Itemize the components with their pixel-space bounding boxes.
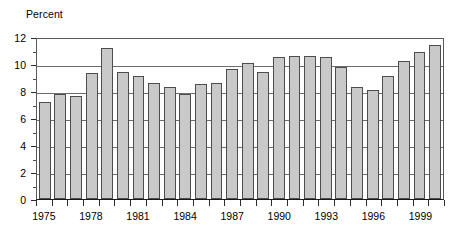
bar-chart: Percent 024681012 1975197819811984198719… xyxy=(0,0,454,246)
bar xyxy=(273,57,285,199)
bar-series xyxy=(37,39,443,199)
bar xyxy=(117,72,129,199)
bar xyxy=(148,83,160,199)
x-tick xyxy=(366,200,367,206)
bar xyxy=(429,45,441,199)
plot-area xyxy=(36,38,444,200)
y-tick-label: 4 xyxy=(0,141,26,152)
x-tick xyxy=(303,200,304,206)
bar-slot xyxy=(302,39,318,199)
y-tick-label: 2 xyxy=(0,168,26,179)
x-tick xyxy=(209,200,210,206)
x-tick xyxy=(444,200,445,206)
bar xyxy=(320,57,332,199)
bar xyxy=(335,67,347,199)
x-tick-label: 1978 xyxy=(79,210,102,222)
bar-slot xyxy=(209,39,225,199)
bar-slot xyxy=(131,39,147,199)
x-tick xyxy=(83,200,84,206)
x-tick xyxy=(146,200,147,206)
bar xyxy=(195,84,207,199)
bar xyxy=(179,94,191,199)
bar-slot xyxy=(365,39,381,199)
bar-slot xyxy=(240,39,256,199)
bar xyxy=(242,63,254,199)
x-tick xyxy=(381,200,382,206)
x-tick xyxy=(52,200,53,206)
x-tick-label: 1990 xyxy=(268,210,291,222)
x-tick xyxy=(177,200,178,206)
y-tick-label: 8 xyxy=(0,87,26,98)
y-tick-label: 0 xyxy=(0,195,26,206)
bar xyxy=(351,87,363,199)
bar-slot xyxy=(84,39,100,199)
bar xyxy=(211,83,223,199)
x-tick xyxy=(397,200,398,206)
bar-slot xyxy=(287,39,303,199)
x-tick-label: 1987 xyxy=(220,210,243,222)
x-tick xyxy=(256,200,257,206)
bar-slot xyxy=(146,39,162,199)
x-tick xyxy=(114,200,115,206)
bar-slot xyxy=(271,39,287,199)
bar xyxy=(86,73,98,199)
x-tick xyxy=(287,200,288,206)
bar-slot xyxy=(412,39,428,199)
bar-slot xyxy=(396,39,412,199)
bar-slot xyxy=(37,39,53,199)
y-tick-label: 10 xyxy=(0,60,26,71)
bar xyxy=(54,94,66,199)
x-tick xyxy=(193,200,194,206)
x-tick xyxy=(36,200,37,206)
x-tick xyxy=(67,200,68,206)
x-tick-label: 1999 xyxy=(409,210,432,222)
bar-slot xyxy=(224,39,240,199)
bar-slot xyxy=(99,39,115,199)
x-tick xyxy=(428,200,429,206)
x-tick-label: 1996 xyxy=(362,210,385,222)
x-tick xyxy=(350,200,351,206)
bar xyxy=(382,76,394,199)
bar-slot xyxy=(177,39,193,199)
bar xyxy=(257,72,269,199)
bar-slot xyxy=(68,39,84,199)
bar xyxy=(133,76,145,199)
y-axis-title: Percent xyxy=(26,8,63,20)
bar-slot xyxy=(334,39,350,199)
x-tick-label: 1993 xyxy=(315,210,338,222)
x-tick-label: 1981 xyxy=(126,210,149,222)
bar xyxy=(101,48,113,199)
x-tick xyxy=(334,200,335,206)
bar xyxy=(304,56,316,199)
bar xyxy=(226,69,238,199)
bar-slot xyxy=(193,39,209,199)
x-tick xyxy=(413,200,414,206)
bar xyxy=(289,56,301,199)
x-tick xyxy=(162,200,163,206)
bar xyxy=(164,87,176,199)
x-tick xyxy=(240,200,241,206)
bar-slot xyxy=(318,39,334,199)
x-tick-label: 1984 xyxy=(173,210,196,222)
x-tick xyxy=(271,200,272,206)
x-tick xyxy=(99,200,100,206)
bar xyxy=(39,102,51,199)
bar xyxy=(70,96,82,199)
bar xyxy=(398,61,410,199)
bar-slot xyxy=(427,39,443,199)
x-tick xyxy=(224,200,225,206)
bar-slot xyxy=(53,39,69,199)
x-tick-label: 1975 xyxy=(32,210,55,222)
bar-slot xyxy=(349,39,365,199)
x-tick xyxy=(130,200,131,206)
bar xyxy=(367,90,379,199)
bar xyxy=(414,52,426,199)
y-tick-label: 12 xyxy=(0,33,26,44)
bar-slot xyxy=(115,39,131,199)
bar-slot xyxy=(380,39,396,199)
bar-slot xyxy=(256,39,272,199)
x-tick xyxy=(318,200,319,206)
y-tick-label: 6 xyxy=(0,114,26,125)
bar-slot xyxy=(162,39,178,199)
